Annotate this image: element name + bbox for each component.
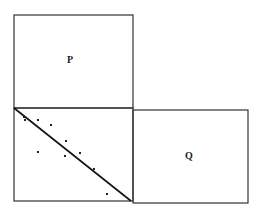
scatter-point — [50, 124, 52, 126]
scatter-point — [37, 119, 39, 121]
regression-line — [14, 108, 131, 201]
scatter-point — [93, 168, 95, 170]
scatter-point — [64, 155, 66, 157]
label-p: P — [67, 54, 73, 65]
scatter-points — [23, 116, 108, 195]
scatter-point — [37, 151, 39, 153]
scatter-point — [24, 119, 26, 121]
scatter-point — [79, 152, 81, 154]
label-q: Q — [185, 150, 193, 161]
scatter-point — [65, 140, 67, 142]
diagram-canvas — [0, 0, 262, 214]
scatter-point — [23, 116, 25, 118]
scatter-point — [106, 193, 108, 195]
box-p — [14, 15, 133, 108]
